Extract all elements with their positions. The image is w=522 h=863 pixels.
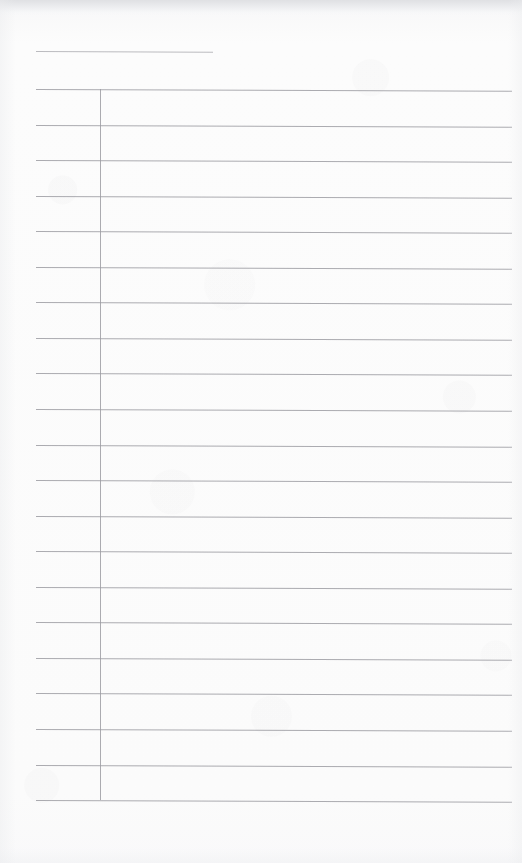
table-cell[interactable] [100, 196, 512, 232]
scan-bottom-edge [0, 837, 522, 863]
table-cell[interactable] [100, 231, 512, 267]
table-cell[interactable] [100, 125, 512, 161]
table-cell[interactable] [100, 267, 512, 303]
table-cell[interactable] [100, 445, 512, 481]
table-cell[interactable] [36, 338, 100, 374]
table-cell[interactable] [36, 409, 100, 445]
table-cell[interactable] [36, 160, 100, 196]
table-cell[interactable] [100, 587, 512, 623]
table-cell[interactable] [36, 480, 100, 516]
table-cell[interactable] [36, 658, 100, 694]
table-cell[interactable] [100, 409, 512, 445]
table-cell[interactable] [36, 516, 100, 552]
table-cell[interactable] [100, 89, 512, 125]
table-cell[interactable] [36, 302, 100, 338]
table-cell[interactable] [36, 693, 100, 729]
heading-underline-rule [36, 51, 213, 53]
table-cell[interactable] [36, 89, 100, 125]
scan-top-edge [0, 0, 522, 15]
table-cell[interactable] [36, 267, 100, 303]
table-cell[interactable] [36, 551, 100, 587]
table-cell[interactable] [36, 587, 100, 623]
table-cell[interactable] [100, 658, 512, 694]
table-cell[interactable] [36, 622, 100, 658]
table-cell[interactable] [100, 729, 512, 765]
table-cell[interactable] [100, 160, 512, 196]
table-cell[interactable] [36, 196, 100, 232]
table-cell[interactable] [36, 373, 100, 409]
table-cell[interactable] [100, 693, 512, 729]
table-cell[interactable] [100, 302, 512, 338]
table-cell[interactable] [100, 373, 512, 409]
table-cell[interactable] [100, 622, 512, 658]
table-cell[interactable] [36, 125, 100, 161]
table-cell[interactable] [100, 551, 512, 587]
table-cell[interactable] [100, 765, 512, 801]
table-cell[interactable] [100, 480, 512, 516]
table-cell[interactable] [36, 445, 100, 481]
table-cell[interactable] [36, 729, 100, 765]
table-cell[interactable] [100, 516, 512, 552]
table-cell[interactable] [36, 765, 100, 801]
table-rule-20 [36, 800, 512, 803]
scanned-page [0, 0, 522, 863]
table-cell[interactable] [36, 231, 100, 267]
table-cell[interactable] [100, 338, 512, 374]
